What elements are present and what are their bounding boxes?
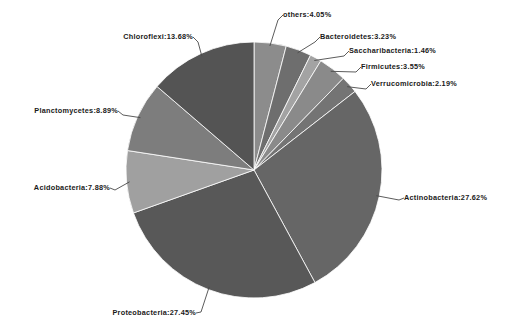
- slice-label-chloroflexi: Chloroflexi:13.68%: [123, 32, 193, 41]
- slice-label-saccharibacteria: Saccharibacteria:1.46%: [349, 46, 436, 55]
- leader-line-actinobacteria: [376, 196, 404, 200]
- leader-line-bacteroidetes: [298, 37, 320, 53]
- leader-line-others: [270, 15, 283, 46]
- slice-label-firmicutes: Firmicutes:3.55%: [361, 62, 425, 71]
- slice-label-planctomycetes: Planctomycetes:8.89%: [34, 106, 118, 115]
- slice-label-proteobacteria: Proteobacteria:27.45%: [112, 308, 196, 317]
- slice-label-bacteroidetes: Bacteroidetes:3.23%: [320, 32, 396, 41]
- leader-line-firmicutes: [331, 67, 361, 72]
- pie-chart-figure: others:4.05%Bacteroidetes:3.23%Saccharib…: [0, 0, 511, 335]
- slice-label-verrucomicrobia: Verrucomicrobia:2.19%: [371, 79, 457, 88]
- leader-line-saccharibacteria: [314, 51, 349, 61]
- leader-line-proteobacteria: [196, 287, 209, 313]
- slice-label-others: others:4.05%: [283, 10, 332, 19]
- slice-label-acidobacteria: Acidobacteria:7.88%: [34, 183, 110, 192]
- pie-chart-canvas: others:4.05%Bacteroidetes:3.23%Saccharib…: [0, 0, 511, 335]
- pie-slices-group: [126, 42, 382, 298]
- slice-label-actinobacteria: Actinobacteria:27.62%: [404, 193, 487, 202]
